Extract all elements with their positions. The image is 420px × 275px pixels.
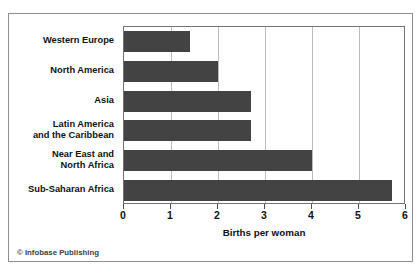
- x-tick-label: 2: [205, 209, 229, 221]
- x-tick-label: 1: [158, 209, 182, 221]
- category-label-line: Asia: [6, 95, 114, 106]
- x-axis: 0123456: [123, 204, 405, 226]
- publisher-credit: © Infobase Publishing: [17, 248, 99, 257]
- category-axis-labels: Western Europe North America Asia Latin …: [9, 26, 119, 204]
- bars-layer: [124, 27, 404, 203]
- category-label-western-europe: Western Europe: [6, 35, 114, 46]
- x-tick-label: 4: [299, 209, 323, 221]
- bar: [124, 120, 251, 141]
- category-label-latin-america: Latin America and the Caribbean: [6, 119, 114, 141]
- category-label-line: North America: [6, 65, 114, 76]
- x-tick-label: 3: [252, 209, 276, 221]
- bar: [124, 91, 251, 112]
- bar: [124, 61, 218, 82]
- category-label-line: Sub-Saharan Africa: [6, 184, 114, 195]
- category-label-line: North Africa: [6, 160, 114, 171]
- category-label-sub-saharan-africa: Sub-Saharan Africa: [6, 184, 114, 195]
- bar: [124, 31, 190, 52]
- chart-figure-frame: Western Europe North America Asia Latin …: [8, 13, 413, 262]
- plot-area: [123, 26, 405, 204]
- category-label-line: and the Caribbean: [6, 130, 114, 141]
- x-tick-label: 5: [346, 209, 370, 221]
- x-tick-label: 0: [111, 209, 135, 221]
- x-tick-label: 6: [393, 209, 417, 221]
- x-axis-title: Births per woman: [123, 227, 405, 238]
- category-label-north-america: North America: [6, 65, 114, 76]
- category-label-near-east: Near East and North Africa: [6, 149, 114, 171]
- bar: [124, 180, 392, 201]
- category-label-line: Near East and: [6, 149, 114, 160]
- category-label-line: Latin America: [6, 119, 114, 130]
- bar: [124, 150, 312, 171]
- category-label-asia: Asia: [6, 95, 114, 106]
- category-label-line: Western Europe: [6, 35, 114, 46]
